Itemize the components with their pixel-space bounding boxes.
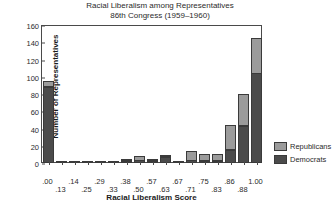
x-axis-tick-label: .75: [198, 177, 208, 186]
x-axis-tick-mark: [127, 162, 128, 165]
racial-liberalism-histogram: Racial Liberalism among Representatives …: [0, 0, 335, 212]
x-axis-title: Racial Liberalism Score: [41, 193, 262, 202]
x-axis-tick-mark: [114, 162, 115, 165]
chart-title: Racial Liberalism among Representatives: [40, 1, 280, 11]
x-axis-tick-mark: [62, 162, 63, 165]
x-axis-tick-mark: [231, 162, 232, 165]
chart-title-block: Racial Liberalism among Representatives …: [40, 1, 280, 21]
x-axis-tick-label: .38: [120, 177, 130, 186]
x-axis-tick-mark: [179, 162, 180, 165]
legend-swatch-icon: [274, 142, 287, 151]
y-axis-tick-label: 0: [17, 160, 39, 169]
x-axis-tick-label: .57: [146, 177, 156, 186]
x-axis-tick-mark: [88, 162, 89, 165]
bar-segment-republicans: [238, 94, 249, 126]
x-axis-tick-label: .29: [94, 177, 104, 186]
legend-item-republicans[interactable]: Republicans: [274, 140, 331, 153]
legend-label: Republicans: [290, 142, 331, 151]
x-axis-tick-mark: [218, 162, 219, 165]
bars-layer: [42, 26, 261, 162]
x-axis-tick-mark: [205, 162, 206, 165]
x-axis-tick-mark: [257, 162, 258, 165]
x-axis-tick-mark: [140, 162, 141, 165]
bar-stack: [212, 154, 223, 162]
bar-segment-democrats: [238, 126, 249, 163]
bar-segment-republicans: [251, 38, 262, 73]
y-axis-tick-mark: [42, 164, 45, 165]
x-axis-tick-label: 1.00: [248, 177, 263, 186]
legend-swatch-icon: [274, 155, 287, 164]
y-axis-tick-label: 120: [17, 56, 39, 65]
bar-segment-democrats: [43, 87, 54, 163]
bar-stack: [199, 154, 210, 162]
x-axis-tick-label: .14: [68, 177, 78, 186]
bar-stack: [160, 155, 171, 162]
plot-area: Number of Representatives 02040608010012…: [41, 25, 262, 163]
bar-stack: [251, 38, 262, 162]
x-axis-tick-label: .00: [42, 177, 52, 186]
y-axis-tick-label: 160: [17, 22, 39, 31]
bar-stack: [238, 94, 249, 162]
chart-subtitle: 86th Congress (1959–1960): [40, 11, 280, 21]
bar-segment-democrats: [225, 150, 236, 163]
x-axis-tick-mark: [75, 162, 76, 165]
x-axis-tick-mark: [244, 162, 245, 165]
x-axis-tick-label: .86: [224, 177, 234, 186]
bar-segment-democrats: [251, 73, 262, 163]
y-axis-tick-label: 80: [17, 91, 39, 100]
bar-stack: [225, 125, 236, 162]
y-axis-tick-label: 60: [17, 108, 39, 117]
x-axis-tick-label: .67: [172, 177, 182, 186]
bar-segment-republicans: [225, 125, 236, 150]
y-axis-tick-label: 100: [17, 73, 39, 82]
y-axis-tick-label: 40: [17, 125, 39, 134]
y-axis-tick-label: 20: [17, 142, 39, 151]
bar-stack: [43, 81, 54, 162]
y-axis-tick-label: 140: [17, 39, 39, 48]
x-axis-tick-mark: [49, 162, 50, 165]
legend-label: Democrats: [290, 155, 326, 164]
x-axis-tick-mark: [166, 162, 167, 165]
x-axis-tick-mark: [153, 162, 154, 165]
x-axis-tick-mark: [192, 162, 193, 165]
legend-item-democrats[interactable]: Democrats: [274, 153, 331, 166]
chart-legend: RepublicansDemocrats: [274, 140, 331, 166]
bar-stack: [186, 151, 197, 162]
x-axis-tick-mark: [101, 162, 102, 165]
